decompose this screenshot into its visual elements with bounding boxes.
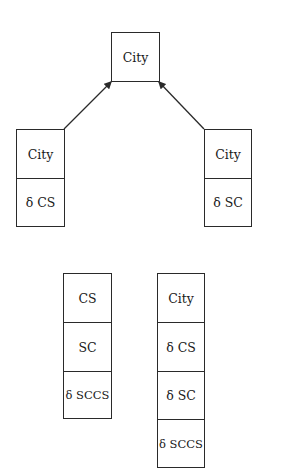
edge-left-to-top [64, 82, 111, 129]
node-top: City [111, 32, 160, 82]
cell-delta-sccs: δ SCCS [64, 371, 111, 418]
cell-city: City [158, 274, 204, 322]
cell-delta-cs: δ CS [158, 322, 204, 371]
cell-sc: SC [64, 322, 111, 371]
cell-delta-sc: δ SC [205, 178, 251, 226]
cell-city: City [112, 33, 159, 81]
node-left: City δ CS [16, 129, 65, 227]
cell-cs: CS [64, 274, 111, 322]
cell-delta-sc: δ SC [158, 371, 204, 419]
cell-delta-sccs: δ SCCS [158, 419, 204, 467]
node-bottom-left: CS SC δ SCCS [63, 273, 112, 419]
cell-city: City [205, 130, 251, 178]
node-right: City δ SC [204, 129, 252, 227]
cell-delta-cs: δ CS [17, 178, 64, 226]
node-bottom-right: City δ CS δ SC δ SCCS [157, 273, 205, 468]
edge-right-to-top [159, 82, 204, 129]
cell-city: City [17, 130, 64, 178]
